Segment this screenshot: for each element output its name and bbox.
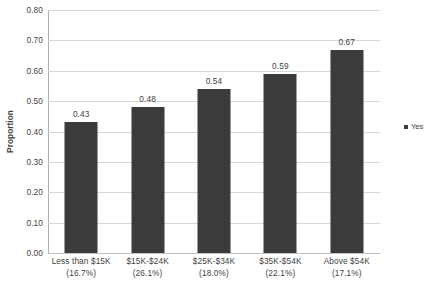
bar[interactable] [131,107,164,253]
bar[interactable] [264,74,297,253]
plot-area: 0.800.700.600.500.400.300.200.100.00 0.4… [48,10,380,253]
bar-chart: Proportion 0.800.700.600.500.400.300.200… [0,0,431,288]
bar[interactable] [197,89,230,253]
y-axis-title: Proportion [4,10,16,253]
y-axis-tick-label: 0.60 [26,66,48,76]
bar-value-label: 0.48 [139,94,156,104]
bar-slot: 0.67 [314,10,380,253]
bar[interactable] [65,122,98,253]
x-axis-category-share: (17.1%) [314,268,380,280]
legend: Yes [404,122,423,131]
bar-value-label: 0.59 [272,61,289,71]
bar-slot: 0.43 [48,10,114,253]
bar-slot: 0.48 [114,10,180,253]
x-axis-category-share: (22.1%) [247,268,313,280]
y-axis-tick-label: 0.10 [26,218,48,228]
x-axis-category-name: $15K-$24K [126,256,168,266]
x-axis-tick-label: $35K-$54K(22.1%) [247,256,313,279]
legend-label-yes: Yes [411,122,423,131]
gridline [48,253,380,254]
y-axis-tick-label: 0.30 [26,157,48,167]
x-axis-category-name: $25K-$34K [193,256,235,266]
bar-slot: 0.54 [181,10,247,253]
y-axis-tick-label: 0.40 [26,127,48,137]
bar-value-label: 0.67 [339,37,356,47]
x-axis-ticks: Less than $15K(16.7%)$15K-$24K(26.1%)$25… [48,256,380,286]
x-axis-tick-label: Less than $15K(16.7%) [48,256,114,279]
bar-value-label: 0.54 [206,76,223,86]
x-axis-category-name: Above $54K [324,256,370,266]
x-axis-category-share: (18.0%) [181,268,247,280]
x-axis-category-share: (16.7%) [48,268,114,280]
x-axis-category-share: (26.1%) [114,268,180,280]
x-axis-tick-label: $15K-$24K(26.1%) [114,256,180,279]
legend-swatch-yes [404,125,408,129]
x-axis-category-name: $35K-$54K [259,256,301,266]
y-axis-tick-label: 0.20 [26,187,48,197]
y-axis-tick-label: 0.50 [26,96,48,106]
x-axis-tick-label: $25K-$34K(18.0%) [181,256,247,279]
bar-slot: 0.59 [247,10,313,253]
y-axis-title-label: Proportion [6,110,15,153]
x-axis-category-name: Less than $15K [52,256,111,266]
y-axis-tick-label: 0.00 [26,248,48,258]
y-axis-tick-label: 0.70 [26,35,48,45]
x-axis-tick-label: Above $54K(17.1%) [314,256,380,279]
y-axis-tick-label: 0.80 [26,5,48,15]
bar-value-label: 0.43 [73,109,90,119]
bar[interactable] [330,50,363,254]
